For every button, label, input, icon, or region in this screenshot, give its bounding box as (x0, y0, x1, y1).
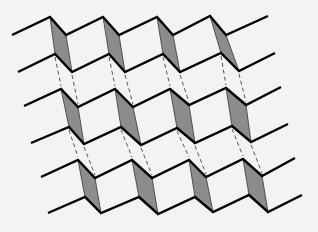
diagram-canvas (0, 0, 318, 232)
fold-face (50, 17, 72, 72)
fold-face (189, 160, 213, 212)
layer-2 (24, 87, 288, 145)
fold-face (103, 17, 125, 72)
layer-1 (12, 16, 275, 72)
fold-face (210, 16, 239, 71)
dashed-alignment-line (55, 57, 61, 86)
fold-face (226, 88, 251, 142)
dashed-alignment-line (221, 56, 226, 85)
fold-face (78, 160, 101, 213)
upper-edge (12, 16, 268, 35)
dashed-alignment-line (239, 74, 246, 102)
dashed-alignment-line (72, 75, 78, 104)
layer-3 (41, 158, 302, 214)
fold-face (243, 159, 268, 212)
lower-edge (18, 53, 275, 72)
folded-sheets-diagram (0, 0, 318, 232)
fold-face (61, 89, 84, 144)
fold-face (115, 89, 141, 145)
fold-face (132, 160, 158, 214)
fold-face (157, 17, 180, 72)
fold-face (170, 89, 195, 143)
